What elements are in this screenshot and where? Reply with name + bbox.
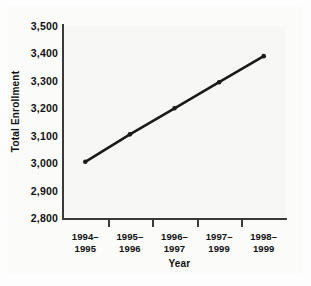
y-tick-label: 3,500 xyxy=(0,21,58,32)
x-tick-mark xyxy=(241,220,243,227)
x-tick-label-line: 1999 xyxy=(237,243,291,255)
x-tick-label-line: 1998– xyxy=(237,231,291,243)
enrollment-line-chart: 2,8002,9003,0003,1003,2003,3003,4003,500… xyxy=(0,0,311,286)
x-axis-title: Year xyxy=(0,258,311,269)
y-tick-label: 3,400 xyxy=(0,48,58,59)
x-tick-label: 1998–1999 xyxy=(237,231,291,254)
x-tick-mark xyxy=(152,220,154,227)
x-axis-line xyxy=(62,218,287,220)
y-tick-label: 2,800 xyxy=(0,213,58,224)
y-tick-label: 3,000 xyxy=(0,158,58,169)
y-axis-line xyxy=(62,24,64,220)
x-tick-mark xyxy=(197,220,199,227)
y-tick-label: 2,900 xyxy=(0,186,58,197)
y-axis-title: Total Enrollment xyxy=(10,67,21,157)
x-tick-mark xyxy=(108,220,110,227)
plot-area xyxy=(63,26,286,218)
